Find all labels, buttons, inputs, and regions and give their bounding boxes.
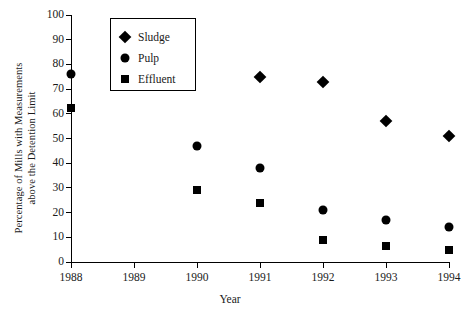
legend-item-sludge: Sludge [120, 26, 195, 47]
square-marker-icon [120, 72, 136, 86]
data-point-pulp [319, 206, 328, 215]
data-point-pulp [67, 70, 76, 79]
x-axis-tick [134, 262, 135, 268]
data-point-effluent [67, 104, 75, 112]
x-axis-tick [386, 262, 387, 268]
y-axis-tick-label: 80 [0, 58, 72, 69]
data-point-effluent [193, 186, 201, 194]
circle-marker-icon [120, 51, 136, 65]
data-point-sludge [317, 75, 330, 88]
data-point-effluent [445, 246, 453, 254]
legend-label-effluent: Effluent [136, 73, 175, 85]
data-point-sludge [443, 130, 456, 143]
x-axis-tick [71, 262, 72, 268]
x-axis-tick [260, 262, 261, 268]
y-axis-tick-label: 60 [0, 108, 72, 119]
data-point-pulp [445, 223, 454, 232]
y-axis-tick-label: 30 [0, 182, 72, 193]
data-point-sludge [254, 70, 267, 83]
x-axis-tick-label: 1988 [41, 271, 101, 283]
y-axis-tick-label: 20 [0, 207, 72, 218]
x-axis-tick [449, 262, 450, 268]
x-axis-tick-label: 1993 [356, 271, 416, 283]
legend-label-pulp: Pulp [136, 52, 159, 64]
x-axis-tick-label: 1991 [230, 271, 290, 283]
data-point-pulp [382, 216, 391, 225]
x-axis-tick-label: 1992 [293, 271, 353, 283]
x-axis-tick-label: 1989 [104, 271, 164, 283]
diamond-marker-icon [120, 30, 136, 44]
x-axis-title: Year [0, 293, 460, 305]
y-axis-tick-label: 70 [0, 83, 72, 94]
legend-item-pulp: Pulp [120, 47, 195, 68]
data-point-pulp [193, 141, 202, 150]
y-axis-tick-label: 100 [0, 9, 72, 20]
data-point-pulp [256, 164, 265, 173]
data-point-effluent [382, 242, 390, 250]
y-axis-tick-label: 40 [0, 157, 72, 168]
y-axis-tick-label: 90 [0, 34, 72, 45]
y-axis-tick-label: 0 [0, 256, 72, 267]
data-point-effluent [256, 199, 264, 207]
data-point-effluent [319, 236, 327, 244]
y-axis-tick-label: 10 [0, 231, 72, 242]
legend-label-sludge: Sludge [136, 31, 170, 43]
x-axis-tick-label: 1990 [167, 271, 227, 283]
x-axis-tick [197, 262, 198, 268]
data-point-sludge [380, 115, 393, 128]
chart-legend: Sludge Pulp Effluent [110, 18, 196, 91]
y-axis-tick-label: 50 [0, 133, 72, 144]
x-axis-tick [323, 262, 324, 268]
x-axis-tick-label: 1994 [419, 271, 465, 283]
legend-item-effluent: Effluent [120, 68, 195, 89]
